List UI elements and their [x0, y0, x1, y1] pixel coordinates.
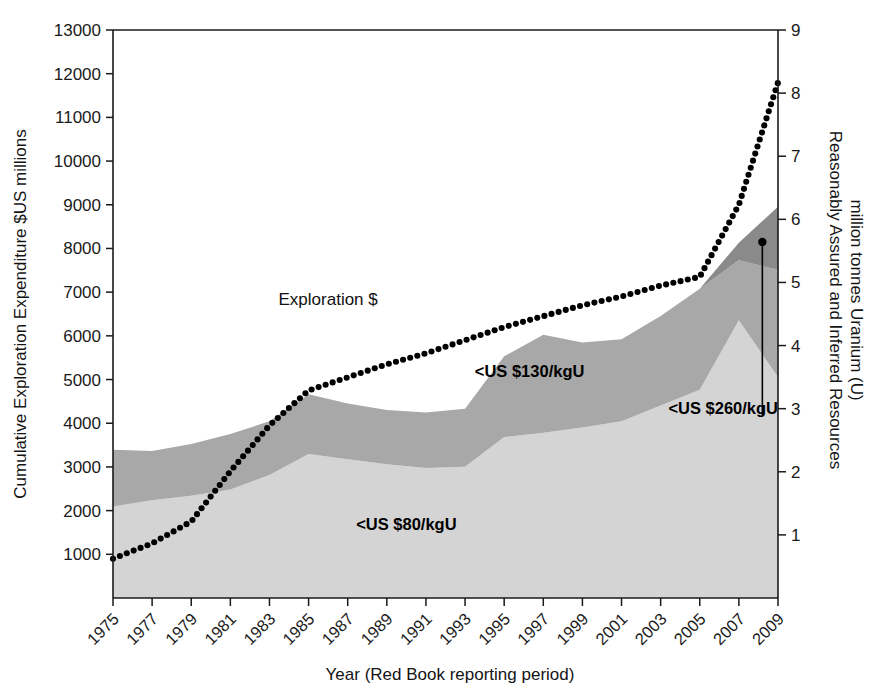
- exploration-dot: [379, 363, 385, 369]
- y-tick-label-left: 1000: [63, 545, 101, 564]
- exploration-dot: [748, 165, 754, 171]
- exploration-dot: [164, 532, 170, 538]
- exploration-dot: [570, 305, 576, 311]
- y-tick-label-right: 8: [791, 84, 800, 103]
- uranium-resources-chart: 1000200030004000500060007000800090001000…: [0, 0, 872, 696]
- exploration-dot: [358, 370, 364, 376]
- exploration-dot: [591, 300, 597, 306]
- exploration-dot: [151, 539, 157, 545]
- exploration-dot: [577, 303, 583, 309]
- exploration-dot: [386, 361, 392, 367]
- exploration-dot: [286, 405, 292, 411]
- exploration-dot: [712, 246, 718, 252]
- y-tick-label-right: 2: [791, 463, 800, 482]
- exploration-dot: [649, 285, 655, 291]
- exploration-dot: [730, 213, 736, 219]
- exploration-dot: [337, 377, 343, 383]
- exploration-dot: [692, 275, 698, 281]
- exploration-dot: [240, 453, 246, 459]
- exploration-dot: [736, 200, 742, 206]
- exploration-dot: [365, 368, 371, 374]
- callout-marker-dot: [758, 238, 766, 246]
- exploration-dot: [750, 158, 756, 164]
- exploration-dot: [280, 410, 286, 416]
- exploration-dot: [527, 317, 533, 323]
- y-tick-label-right: 6: [791, 210, 800, 229]
- exploration-dot: [541, 313, 547, 319]
- exploration-dot: [606, 296, 612, 302]
- y-tick-label-right: 9: [791, 21, 800, 40]
- exploration-dot: [768, 101, 774, 107]
- exploration-dot: [138, 545, 144, 551]
- exploration-dot: [235, 459, 241, 465]
- exploration-dot: [563, 307, 569, 313]
- y-tick-label-left: 9000: [63, 196, 101, 215]
- exploration-dot: [670, 280, 676, 286]
- y-tick-label-right: 4: [791, 337, 800, 356]
- exploration-dot: [230, 465, 236, 471]
- exploration-dot: [492, 327, 498, 333]
- exploration-dot: [323, 382, 329, 388]
- exploration-dot: [194, 511, 200, 517]
- exploration-dot: [171, 528, 177, 534]
- exploration-dot: [208, 494, 214, 500]
- exploration-dot: [752, 151, 758, 157]
- exploration-dot: [259, 431, 265, 437]
- exploration-dot: [499, 325, 505, 331]
- exploration-dot: [199, 505, 205, 511]
- y-tick-label-right: 1: [791, 526, 800, 545]
- y-tick-label-left: 4000: [63, 414, 101, 433]
- y-axis-right-title-line2: million tonnes Uranium (U): [847, 199, 866, 400]
- exploration-dot: [754, 144, 760, 150]
- exploration-dot: [264, 425, 270, 431]
- exploration-dot: [627, 291, 633, 297]
- exploration-dot: [393, 359, 399, 365]
- exploration-dot: [739, 193, 745, 199]
- exploration-dot: [770, 94, 776, 100]
- exploration-dot: [421, 351, 427, 357]
- series-annotation-2: <US $130/kgU: [475, 362, 585, 380]
- exploration-dot: [663, 281, 669, 287]
- exploration-dot: [351, 372, 357, 378]
- exploration-dot: [245, 448, 251, 454]
- exploration-dot: [685, 276, 691, 282]
- y-tick-label-left: 12000: [54, 65, 101, 84]
- exploration-dot: [705, 259, 711, 265]
- exploration-dot: [548, 311, 554, 317]
- exploration-dot: [221, 476, 227, 482]
- exploration-dot: [144, 542, 150, 548]
- exploration-dot: [400, 357, 406, 363]
- y-tick-label-left: 3000: [63, 458, 101, 477]
- exploration-dot: [302, 390, 308, 396]
- exploration-dot: [203, 499, 209, 505]
- exploration-dot: [456, 339, 462, 345]
- exploration-dot: [297, 395, 303, 401]
- exploration-dot: [763, 115, 769, 121]
- exploration-dot: [701, 265, 707, 271]
- exploration-dot: [719, 233, 725, 239]
- exploration-dot: [766, 108, 772, 114]
- y-tick-label-left: 5000: [63, 371, 101, 390]
- exploration-dot: [117, 553, 123, 559]
- exploration-dot: [741, 186, 747, 192]
- y-tick-label-left: 11000: [55, 108, 101, 127]
- exploration-dot: [428, 348, 434, 354]
- exploration-dot: [158, 536, 164, 542]
- chart-figure: 1000200030004000500060007000800090001000…: [0, 0, 872, 696]
- exploration-dot: [316, 384, 322, 390]
- exploration-dot: [733, 207, 739, 213]
- exploration-dot: [726, 220, 732, 226]
- y-tick-label-left: 2000: [63, 502, 101, 521]
- exploration-dot: [745, 172, 751, 178]
- exploration-dot: [344, 375, 350, 381]
- exploration-dot: [464, 337, 470, 343]
- exploration-dot: [478, 332, 484, 338]
- exploration-dot: [449, 341, 455, 347]
- exploration-dot: [634, 289, 640, 295]
- exploration-dot: [183, 521, 189, 527]
- series-annotation-1: Exploration $: [279, 290, 379, 309]
- exploration-dot: [584, 301, 590, 307]
- exploration-dot: [759, 129, 765, 135]
- exploration-dot: [254, 436, 260, 442]
- exploration-dot: [678, 278, 684, 284]
